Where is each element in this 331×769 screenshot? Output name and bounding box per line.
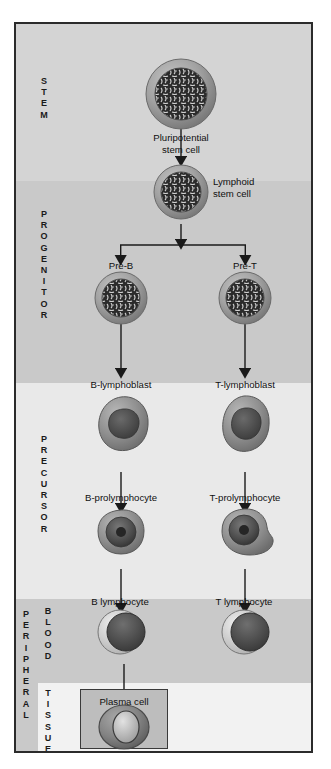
cell-pre-t bbox=[219, 272, 271, 324]
cell-b-prolymphocyte bbox=[98, 510, 144, 554]
cell-b-lymphoblast bbox=[99, 397, 148, 451]
cell-b-lymphocyte bbox=[98, 610, 145, 654]
label-plasma-cell: Plasma cell bbox=[80, 696, 168, 708]
diagram-frame: S T E M P R O G E N I T O R P R E C U R … bbox=[14, 22, 313, 753]
cell-t-prolymphocyte bbox=[222, 509, 273, 555]
label-b-lymphocyte: B lymphocyte bbox=[70, 596, 170, 608]
label-pre-b: Pre-B bbox=[91, 260, 151, 272]
label-pre-t: Pre-T bbox=[215, 260, 275, 272]
label-t-lymphoblast: T-lymphoblast bbox=[195, 379, 295, 391]
label-t-prolymphocyte: T-prolymphocyte bbox=[185, 492, 305, 504]
label-b-lymphoblast: B-lymphoblast bbox=[71, 379, 171, 391]
label-b-prolymphocyte: B-prolymphocyte bbox=[61, 492, 181, 504]
cell-pre-b bbox=[95, 272, 147, 324]
cell-t-lymphocyte bbox=[222, 610, 269, 654]
label-t-lymphocyte: T lymphocyte bbox=[194, 596, 294, 608]
label-lymphoid-stem: Lymphoid stem cell bbox=[213, 176, 297, 199]
label-pluripotential-stem: Pluripotential stem cell bbox=[131, 132, 231, 155]
cell-pluripotential-stem bbox=[146, 59, 216, 129]
cell-t-lymphoblast bbox=[223, 396, 269, 451]
cell-lymphoid-stem bbox=[154, 165, 208, 219]
